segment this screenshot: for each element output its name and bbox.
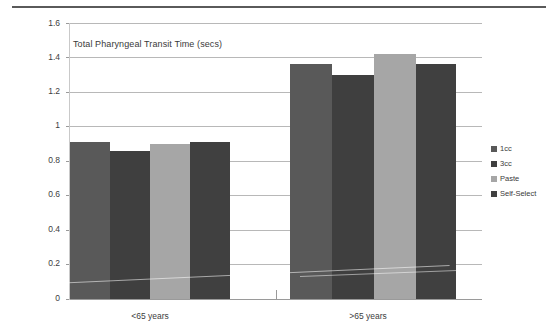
legend-item-3cc[interactable]: 3cc: [491, 156, 551, 171]
y-tick-label: 0.2: [14, 259, 60, 268]
y-tick-label: 0: [14, 294, 60, 303]
bar-paste-lt65: [150, 144, 190, 299]
legend-item-1cc[interactable]: 1cc: [491, 141, 551, 156]
legend-item-paste[interactable]: Paste: [491, 171, 551, 186]
gridline-baseline: [70, 299, 482, 300]
category-separator-tick: [276, 290, 277, 299]
y-tick-label: 1.2: [14, 87, 60, 96]
y-tick-label: 1: [14, 121, 60, 130]
bar-self-select-gt65: [416, 64, 456, 299]
bar-1cc-lt65: [70, 142, 110, 299]
legend-label: Paste: [500, 175, 519, 183]
plot-area: [70, 23, 482, 299]
legend-label: Self-Select: [500, 190, 536, 198]
legend-label: 3cc: [500, 160, 512, 168]
chart-page: 1.6 1.4 1.2 1 0.8 0.6 0.4 0.2 0: [0, 0, 552, 331]
legend-item-self-select[interactable]: Self-Select: [491, 186, 551, 201]
x-category-label-gt65: >65 years: [318, 312, 418, 321]
chart-legend: 1cc 3cc Paste Self-Select: [491, 141, 551, 201]
gridline: [70, 23, 482, 24]
y-tick-label: 0.6: [14, 190, 60, 199]
y-tick-label: 1.6: [14, 19, 60, 28]
bar-chart: 1.6 1.4 1.2 1 0.8 0.6 0.4 0.2 0: [0, 0, 552, 331]
y-tick-label: 1.4: [14, 53, 60, 62]
y-tick-label: 0.8: [14, 156, 60, 165]
bar-paste-gt65: [374, 54, 416, 299]
legend-swatch-icon: [491, 161, 497, 167]
bar-3cc-lt65: [110, 151, 150, 299]
x-category-label-lt65: <65 years: [100, 312, 200, 321]
y-tick-label: 0.4: [14, 225, 60, 234]
bar-1cc-gt65: [290, 64, 332, 299]
legend-swatch-icon: [491, 146, 497, 152]
bar-self-select-lt65: [190, 142, 230, 299]
legend-swatch-icon: [491, 191, 497, 197]
chart-title: Total Pharyngeal Transit Time (secs): [73, 39, 222, 49]
legend-swatch-icon: [491, 176, 497, 182]
gridline: [70, 57, 482, 58]
bar-3cc-gt65: [332, 75, 374, 299]
legend-label: 1cc: [500, 145, 512, 153]
